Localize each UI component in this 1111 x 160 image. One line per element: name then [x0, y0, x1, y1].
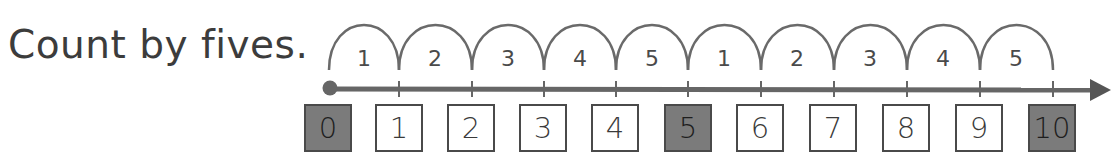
hop-label: 2	[782, 46, 812, 71]
number-box-1: 1	[375, 104, 423, 152]
number-box-5: 5	[664, 104, 712, 152]
hop-label: 4	[928, 46, 958, 71]
number-box-8: 8	[882, 104, 930, 152]
hop-label: 1	[349, 46, 379, 71]
number-box-4: 4	[591, 104, 639, 152]
number-box-10: 10	[1028, 104, 1076, 152]
hop-label: 5	[1001, 46, 1031, 71]
number-box-3: 3	[519, 104, 567, 152]
number-box-7: 7	[809, 104, 857, 152]
number-box-6: 6	[736, 104, 784, 152]
hop-label: 1	[709, 46, 739, 71]
number-box-2: 2	[447, 104, 495, 152]
number-box-9: 9	[955, 104, 1003, 152]
hop-label: 5	[637, 46, 667, 71]
axis-line	[330, 89, 1092, 90]
start-dot	[323, 81, 338, 96]
hop-label: 3	[493, 46, 523, 71]
number-box-0: 0	[304, 104, 352, 152]
hop-label: 2	[420, 46, 450, 71]
hop-label: 3	[855, 46, 885, 71]
hop-label: 4	[565, 46, 595, 71]
arrowhead-icon	[1090, 79, 1111, 101]
